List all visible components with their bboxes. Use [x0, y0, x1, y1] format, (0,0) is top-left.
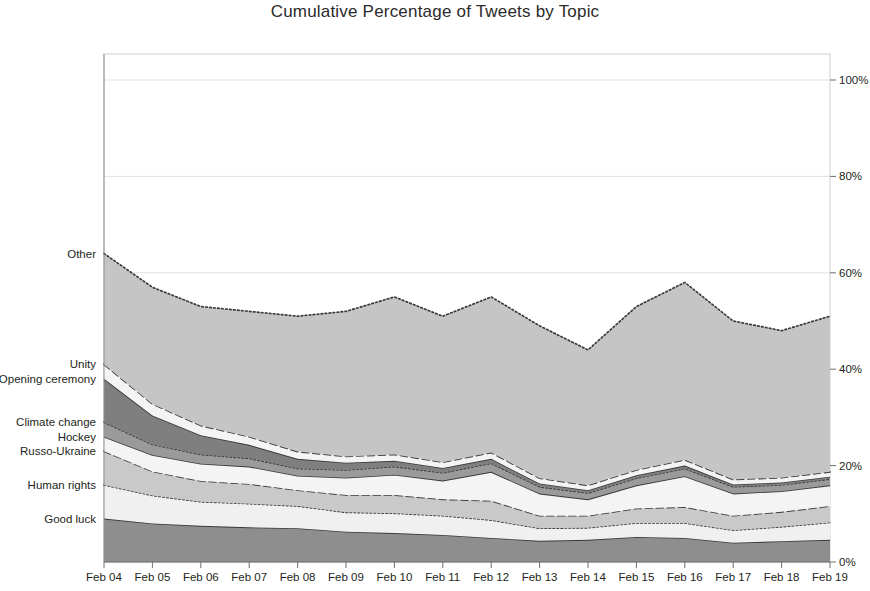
- x-tick-label: Feb 17: [715, 571, 751, 583]
- chart-container: Cumulative Percentage of Tweets by Topic…: [0, 0, 870, 591]
- y-tick-label: 100%: [839, 74, 868, 86]
- y-tick-label: 60%: [839, 267, 862, 279]
- series-label: Other: [67, 248, 96, 260]
- series-label: Human rights: [28, 479, 97, 491]
- y-tick-label: 0%: [839, 556, 856, 568]
- x-tick-label: Feb 04: [86, 571, 122, 583]
- x-tick-label: Feb 08: [280, 571, 316, 583]
- x-tick-label: Feb 05: [134, 571, 170, 583]
- x-axis-ticks: Feb 04Feb 05Feb 06Feb 07Feb 08Feb 09Feb …: [86, 562, 848, 583]
- x-tick-label: Feb 13: [522, 571, 558, 583]
- x-tick-label: Feb 19: [812, 571, 848, 583]
- y-tick-label: 80%: [839, 170, 862, 182]
- series-label: Unity: [70, 358, 96, 370]
- x-tick-label: Feb 18: [764, 571, 800, 583]
- stacked-area-chart: 0%20%40%60%80%100% Feb 04Feb 05Feb 06Feb…: [0, 0, 870, 591]
- x-tick-label: Feb 15: [618, 571, 654, 583]
- y-tick-label: 20%: [839, 460, 862, 472]
- x-tick-label: Feb 09: [328, 571, 364, 583]
- x-tick-label: Feb 14: [570, 571, 606, 583]
- series-label: Hockey: [58, 431, 97, 443]
- x-tick-label: Feb 06: [183, 571, 219, 583]
- series-label: Russo-Ukraine: [20, 445, 96, 457]
- y-tick-label: 40%: [839, 363, 862, 375]
- series-label: Climate change: [16, 416, 96, 428]
- x-tick-label: Feb 11: [425, 571, 460, 583]
- x-tick-label: Feb 07: [231, 571, 267, 583]
- x-tick-label: Feb 12: [473, 571, 509, 583]
- series-label: Opening ceremony: [0, 373, 96, 385]
- series-labels-group: Good luckHuman rightsRusso-UkraineHockey…: [0, 248, 96, 525]
- series-label: Good luck: [44, 513, 96, 525]
- x-tick-label: Feb 10: [376, 571, 412, 583]
- y-axis-ticks: 0%20%40%60%80%100%: [830, 74, 868, 568]
- x-tick-label: Feb 16: [667, 571, 703, 583]
